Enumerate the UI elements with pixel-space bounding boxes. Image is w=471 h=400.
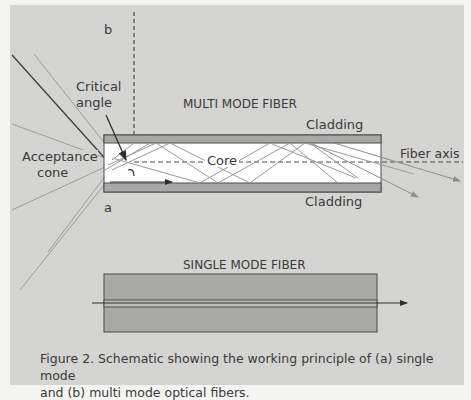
multi-mode-fiber: [104, 135, 381, 192]
label-cladding-top: Cladding: [306, 118, 363, 131]
single-mode-title: SINGLE MODE FIBER: [183, 259, 306, 271]
label-critical-angle-2: angle: [76, 96, 112, 109]
cladding-bottom: [104, 183, 381, 192]
label-acceptance-cone-2: cone: [37, 166, 68, 179]
multi-mode-title: MULTI MODE FIBER: [183, 98, 297, 110]
label-a: a: [104, 201, 112, 214]
figure-caption: Figure 2. Schematic showing the working …: [40, 350, 460, 400]
label-fiber-axis: Fiber axis: [400, 148, 460, 161]
caption-line-1: Figure 2. Schematic showing the working …: [40, 350, 460, 384]
label-core: Core: [205, 154, 239, 167]
caption-line-2: and (b) multi mode optical fibers.: [40, 384, 460, 400]
label-critical-angle-1: Critical: [76, 80, 121, 93]
label-acceptance-cone-1: Acceptance: [22, 150, 98, 163]
label-b: b: [104, 23, 112, 36]
label-cladding-bottom: Cladding: [305, 195, 362, 208]
fiber-schematic: [0, 0, 471, 400]
cladding-top: [104, 135, 381, 143]
